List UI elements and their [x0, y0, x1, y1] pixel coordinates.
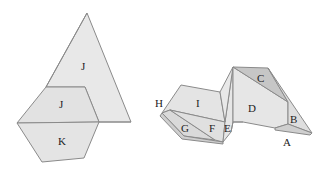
label-h: H: [155, 97, 163, 109]
label-j-lower: J: [59, 98, 64, 110]
label-e: E: [224, 122, 231, 134]
label-i: I: [196, 97, 200, 109]
right-figure: H I G F E D C B A: [155, 67, 312, 148]
label-j-upper: J: [81, 60, 86, 72]
left-figure: J J K: [17, 13, 131, 162]
label-k: K: [58, 135, 66, 147]
folded-polyhedron-diagram: J J K H: [0, 0, 331, 172]
face-j-hexagon: [17, 87, 99, 123]
label-f: F: [209, 122, 215, 134]
label-b: B: [290, 113, 297, 125]
label-g: G: [181, 122, 189, 134]
label-a: A: [283, 136, 291, 148]
label-c: C: [257, 72, 264, 84]
label-d: D: [248, 102, 256, 114]
